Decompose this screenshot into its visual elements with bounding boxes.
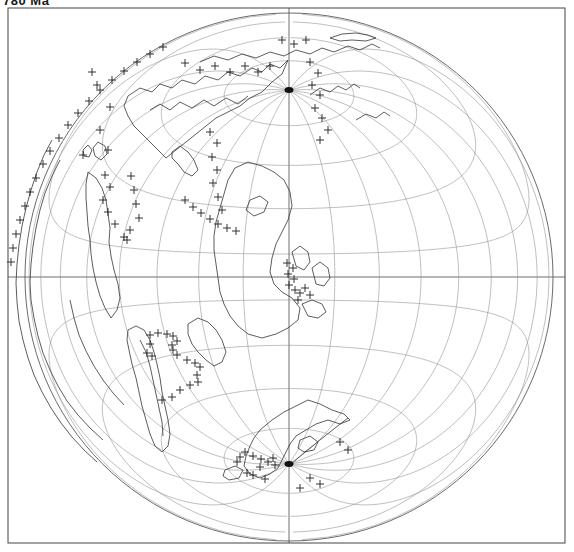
map-figure: 780 Ma	[0, 0, 574, 552]
south-pole-marker	[285, 461, 294, 467]
site-markers-plus	[7, 36, 352, 492]
map-age-label: 780 Ma	[3, 0, 49, 8]
map-canvas	[0, 0, 574, 552]
north-pole-marker	[285, 87, 294, 93]
